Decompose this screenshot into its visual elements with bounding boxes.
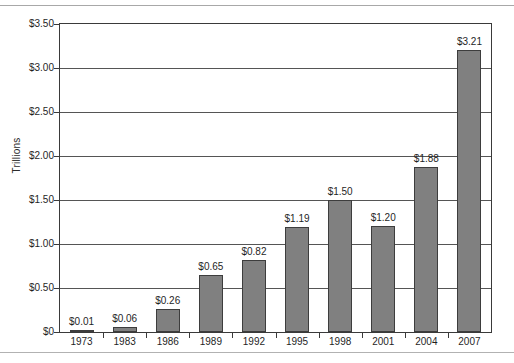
y-axis-tick-label: $0.50: [0, 282, 54, 293]
x-axis-tick-mark: [448, 333, 449, 338]
y-axis-tick-label: $1.00: [0, 238, 54, 249]
y-axis-tick-label: $3.00: [0, 62, 54, 73]
x-axis-tick-mark: [189, 333, 190, 338]
x-axis-tick-mark: [232, 333, 233, 338]
bar[interactable]: [242, 260, 266, 332]
y-axis-tick-label: $2.00: [0, 150, 54, 161]
x-axis-tick-mark: [146, 333, 147, 338]
bar-slot: $0.82: [232, 24, 275, 332]
x-axis-tick-mark: [362, 333, 363, 338]
x-axis-tick-mark: [319, 333, 320, 338]
bar[interactable]: [414, 167, 438, 332]
bar[interactable]: [328, 200, 352, 332]
bar-slot: $0.26: [146, 24, 189, 332]
bar-value-label: $0.01: [69, 316, 94, 327]
bar[interactable]: [113, 327, 137, 332]
bar[interactable]: [156, 309, 180, 332]
bar-chart: Trillions $0$0.50$1.00$1.50$2.00$2.50$3.…: [0, 0, 514, 363]
bar-slot: $1.19: [276, 24, 319, 332]
bar[interactable]: [457, 50, 481, 332]
bar-series: $0.01$0.06$0.26$0.65$0.82$1.19$1.50$1.20…: [60, 24, 491, 332]
bar-slot: $1.20: [362, 24, 405, 332]
bar-slot: $1.88: [405, 24, 448, 332]
bar-slot: $0.65: [189, 24, 232, 332]
y-axis-tick-label: $1.50: [0, 194, 54, 205]
chart-page: Trillions $0$0.50$1.00$1.50$2.00$2.50$3.…: [0, 0, 514, 363]
bar-value-label: $0.82: [241, 246, 266, 257]
bar-value-label: $0.65: [198, 261, 223, 272]
x-axis-tick-mark: [276, 333, 277, 338]
x-axis-tick-mark: [405, 333, 406, 338]
x-axis-tick-mark: [103, 333, 104, 338]
bar-slot: $0.06: [103, 24, 146, 332]
bar[interactable]: [70, 330, 94, 332]
y-axis-tick-label: $3.50: [0, 18, 54, 29]
bar-value-label: $1.50: [328, 186, 353, 197]
bar-value-label: $0.06: [112, 313, 137, 324]
y-axis-tick-label: $2.50: [0, 106, 54, 117]
bar-slot: $3.21: [448, 24, 491, 332]
bar-value-label: $1.19: [285, 213, 310, 224]
bar[interactable]: [285, 227, 309, 332]
bar-value-label: $0.26: [155, 295, 180, 306]
bar[interactable]: [199, 275, 223, 332]
bar-slot: $0.01: [60, 24, 103, 332]
bar[interactable]: [371, 226, 395, 332]
bar-value-label: $1.20: [371, 212, 396, 223]
bar-value-label: $3.21: [457, 36, 482, 47]
y-axis-tick-label: $0: [0, 326, 54, 337]
bar-slot: $1.50: [319, 24, 362, 332]
bar-value-label: $1.88: [414, 153, 439, 164]
